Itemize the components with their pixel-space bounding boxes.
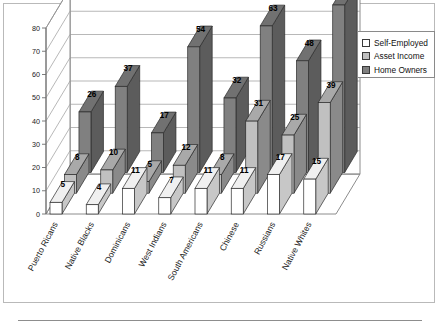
svg-text:63: 63 <box>269 4 279 13</box>
svg-text:40: 40 <box>32 117 40 126</box>
svg-text:32: 32 <box>232 76 242 85</box>
legend-swatch-home-owners <box>362 66 370 74</box>
svg-text:26: 26 <box>87 90 97 99</box>
svg-text:20: 20 <box>32 163 40 172</box>
legend-item-home-owners: Home Owners <box>362 63 431 77</box>
x-axis-tick-label: Native Blacks <box>63 220 96 271</box>
svg-text:30: 30 <box>32 140 40 149</box>
svg-text:70: 70 <box>32 47 40 56</box>
legend-label-asset-income: Asset Income <box>374 52 424 60</box>
svg-text:17: 17 <box>160 111 170 120</box>
svg-text:25: 25 <box>290 113 300 122</box>
svg-text:60: 60 <box>32 70 40 79</box>
svg-text:4: 4 <box>97 183 102 192</box>
svg-text:10: 10 <box>32 186 40 195</box>
svg-text:50: 50 <box>32 93 40 102</box>
svg-text:8: 8 <box>220 153 225 162</box>
svg-text:11: 11 <box>240 166 249 175</box>
svg-text:15: 15 <box>312 157 322 166</box>
svg-text:39: 39 <box>327 81 337 90</box>
svg-text:37: 37 <box>124 64 134 73</box>
x-axis-tick-label: Russians <box>252 220 277 256</box>
x-axis-tick-label: Puerto Ricans <box>26 220 60 272</box>
svg-text:12: 12 <box>182 143 192 152</box>
svg-text:7: 7 <box>169 176 174 185</box>
legend-label-self-employed: Self-Employed <box>374 39 428 47</box>
x-axis-tick-label: West Indians <box>136 220 168 268</box>
svg-text:11: 11 <box>131 166 140 175</box>
chart-container: 0102030405060708072486332541737263925318… <box>0 0 440 334</box>
footer-divider <box>18 320 422 321</box>
chart-legend: Self-Employed Asset Income Home Owners <box>357 31 435 78</box>
svg-text:11: 11 <box>204 166 213 175</box>
x-axis-tick-label: Chinese <box>217 220 241 253</box>
svg-text:5: 5 <box>148 160 153 169</box>
legend-swatch-self-employed <box>362 39 370 47</box>
x-axis-tick-label: South Americans <box>165 220 204 282</box>
svg-text:80: 80 <box>32 24 40 33</box>
legend-label-home-owners: Home Owners <box>374 66 427 74</box>
legend-swatch-asset-income <box>362 52 370 60</box>
svg-text:48: 48 <box>305 39 315 48</box>
svg-text:8: 8 <box>75 153 80 162</box>
x-axis-tick-label: Native Whites <box>280 220 314 272</box>
svg-text:17: 17 <box>276 153 286 162</box>
svg-text:0: 0 <box>36 210 40 219</box>
x-axis-tick-label: Dominicans <box>102 220 132 264</box>
legend-item-self-employed: Self-Employed <box>362 36 431 50</box>
svg-text:10: 10 <box>109 148 119 157</box>
svg-text:54: 54 <box>196 25 206 34</box>
svg-text:5: 5 <box>61 180 66 189</box>
legend-item-asset-income: Asset Income <box>362 50 431 64</box>
svg-text:31: 31 <box>254 99 264 108</box>
